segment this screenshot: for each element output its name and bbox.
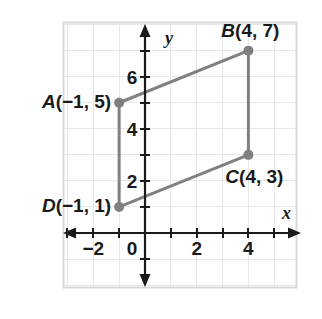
x-tick-label-4: 4 — [243, 238, 254, 259]
coordinate-plane-figure: −2024246 A(−1, 5)B(4, 7)C(4, 3)D(−1, 1) … — [0, 0, 322, 319]
point-label-b: B(4, 7) — [221, 20, 279, 41]
y-axis-label: y — [163, 28, 174, 48]
x-tick-label-0: 0 — [127, 238, 138, 259]
figure-background — [0, 0, 322, 319]
y-tick-label-6: 6 — [127, 67, 138, 88]
x-tick-label--2: −2 — [82, 238, 104, 259]
vertex-point-d — [114, 202, 124, 212]
x-tick-label-2: 2 — [191, 238, 202, 259]
x-axis-label: x — [281, 203, 291, 223]
point-label-d: D(−1, 1) — [42, 195, 111, 216]
vertex-point-a — [114, 98, 124, 108]
vertex-point-b — [243, 46, 253, 56]
y-tick-label-2: 2 — [127, 171, 138, 192]
point-label-c: C(4, 3) — [225, 166, 283, 187]
coordinate-plane-svg: −2024246 A(−1, 5)B(4, 7)C(4, 3)D(−1, 1) … — [0, 0, 322, 319]
vertex-point-c — [243, 150, 253, 160]
point-label-a: A(−1, 5) — [41, 91, 111, 112]
y-tick-label-4: 4 — [127, 119, 138, 140]
